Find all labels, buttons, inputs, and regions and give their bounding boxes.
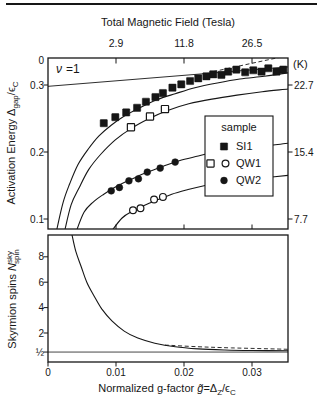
top-panel-ylabel: Activation Energy Δgap/ϵC [5, 81, 20, 204]
bottom-panel-left-tick-label: 4 [38, 302, 44, 313]
filled-square-marker [159, 89, 166, 96]
open-circle-marker [160, 193, 167, 200]
filled-square-marker [203, 73, 210, 80]
filled-circle-marker [108, 187, 115, 194]
axis-title-part: /ϵ [222, 382, 230, 394]
skyrmion-size-curve [72, 234, 288, 351]
bottom-axis-tick-label: 0.02 [174, 367, 194, 378]
figure-canvas: 2.911.826.500.30.20.122.715.47.78642½00.… [0, 0, 323, 410]
filled-square-marker [123, 109, 130, 116]
filled-circle-marker [135, 175, 142, 182]
bottom-axis-tick-label: 0.01 [106, 367, 126, 378]
filled-square-marker [250, 67, 257, 74]
filled-circle-marker [126, 177, 133, 184]
left-axis-tick-label: 0 [38, 55, 44, 66]
bottom-panel-left-tick-label: ½ [36, 347, 45, 358]
filled-circle-marker [172, 159, 179, 166]
axis-title-part: spin [12, 249, 21, 264]
filled-circle-marker [157, 165, 164, 172]
bottom-panel-left-tick-label: 2 [38, 328, 44, 339]
bottom-panel-left-tick-label: 6 [38, 277, 44, 288]
filled-square-marker [265, 65, 272, 72]
filled-square-marker [100, 120, 107, 127]
filled-square-marker [169, 84, 176, 91]
filled-square-marker [178, 81, 185, 88]
filled-square-marker [225, 68, 232, 75]
open-square-marker [127, 124, 134, 131]
axis-title-part: C [230, 388, 236, 397]
filled-square-marker [142, 98, 149, 105]
open-circle-marker [151, 196, 158, 203]
filled-square-marker [187, 77, 194, 84]
bottom-panel-left-tick-label: 8 [38, 251, 44, 262]
filled-square-marker [152, 93, 159, 100]
filling-factor-annotation: ν=1 [56, 62, 80, 76]
open-square-marker [146, 113, 153, 120]
axis-title-part: Normalized g-factor [98, 382, 197, 394]
open-circle-marker [222, 160, 229, 167]
filled-square-marker [233, 66, 240, 73]
open-circle-marker [130, 207, 137, 214]
filled-square-marker [210, 71, 217, 78]
open-square-marker [161, 106, 168, 113]
top-axis-tick-label: 26.5 [242, 37, 263, 49]
filled-circle-marker [221, 177, 228, 184]
axis-title-part: C [11, 81, 20, 87]
right-axis-tick-label: 15.4 [294, 147, 314, 158]
legend-title: sample [221, 121, 256, 133]
filled-square-marker [258, 68, 265, 75]
left-axis-tick-label: 0.3 [30, 80, 44, 91]
bottom-axis-tick-label: 0 [45, 367, 51, 378]
top-axis-tick-label: 11.8 [174, 37, 194, 49]
bottom-axis-tick-label: 0.03 [242, 367, 262, 378]
right-axis-tick-label: 22.7 [294, 80, 314, 91]
filled-square-marker [133, 104, 140, 111]
axis-title-part: =Δ [203, 382, 217, 394]
filled-circle-marker [116, 184, 123, 191]
legend-label-si1: SI1 [236, 140, 253, 152]
axis-title-part: Skyrmion spins [6, 271, 18, 349]
axis-title-part: Activation Energy [5, 116, 17, 205]
top-axis-title: Total Magnetic Field (Tesla) [101, 16, 235, 28]
filled-square-marker [220, 143, 227, 150]
legend: sample SI1 QW1 QW2 [205, 116, 273, 196]
filled-circle-marker [144, 169, 151, 176]
right-axis-tick-label: 7.7 [294, 214, 308, 225]
axis-title-part: gap [11, 95, 20, 109]
nu-symbol: ν [56, 62, 62, 76]
filled-square-marker [195, 75, 202, 82]
axis-title-part: /ϵ [5, 87, 17, 95]
filled-square-marker [280, 66, 287, 73]
filled-square-marker [273, 68, 280, 75]
figure-page: 2.911.826.500.30.20.122.715.47.78642½00.… [0, 0, 323, 410]
left-axis-tick-label: 0.1 [30, 214, 44, 225]
open-square-marker [207, 160, 214, 167]
kelvin-unit-label: (K) [293, 58, 308, 70]
legend-label-qw1: QW1 [236, 157, 261, 169]
bottom-panel-ylabel: Skyrmion spins Nskyspin [5, 249, 21, 348]
filled-square-marker [242, 69, 249, 76]
top-axis-tick-label: 2.9 [109, 37, 124, 49]
left-axis-tick-label: 0.2 [30, 147, 44, 158]
open-circle-marker [137, 205, 144, 212]
nu-equals-one: =1 [66, 62, 80, 76]
bottom-axis-title: Normalized g-factor g̃=ΔZ/ϵC [98, 382, 236, 397]
legend-label-qw2: QW2 [236, 174, 261, 186]
top-panel-ylabel-group: Activation Energy Δgap/ϵC [5, 81, 20, 204]
filled-square-marker [218, 71, 225, 78]
bottom-panel-plot-area [48, 234, 288, 352]
bottom-panel-frame [48, 235, 288, 362]
bottom-panel-ylabel-group: Skyrmion spins Nskyspin [5, 249, 21, 348]
filled-square-marker [112, 114, 119, 121]
